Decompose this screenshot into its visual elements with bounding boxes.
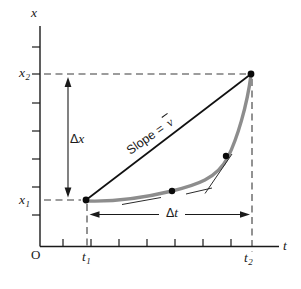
y-axis-ticks bbox=[32, 47, 40, 215]
t1-subscript: 1 bbox=[86, 256, 91, 266]
x-axis-label: x bbox=[31, 6, 37, 20]
data-point-mid2 bbox=[223, 153, 229, 159]
origin-label: O bbox=[31, 248, 40, 261]
data-point-mid1 bbox=[169, 188, 175, 194]
x1-subscript: 1 bbox=[26, 199, 31, 209]
t2-label: t2 bbox=[244, 251, 252, 265]
data-point-t2x2 bbox=[248, 71, 255, 78]
x1-label: x1 bbox=[19, 193, 30, 207]
position-time-graph: x x2 x1 Δx Slope = v Δt O t1 t2 t bbox=[0, 0, 301, 289]
tangent-segment-3 bbox=[205, 154, 232, 194]
delta-t-var: t bbox=[174, 205, 178, 220]
delta-x-var: x bbox=[78, 131, 84, 146]
t2-subscript: 2 bbox=[248, 257, 253, 267]
secant-line bbox=[86, 74, 251, 200]
t1-label: t1 bbox=[82, 250, 90, 264]
x2-subscript: 2 bbox=[26, 72, 31, 82]
data-point-t1x1 bbox=[83, 197, 90, 204]
delta-t-label: Δt bbox=[159, 206, 185, 220]
delta-x-label: Δx bbox=[70, 132, 84, 146]
x2-base: x bbox=[19, 65, 25, 80]
x1-base: x bbox=[19, 192, 25, 207]
x2-label: x2 bbox=[19, 66, 30, 80]
t-axis-label: t bbox=[283, 239, 287, 253]
